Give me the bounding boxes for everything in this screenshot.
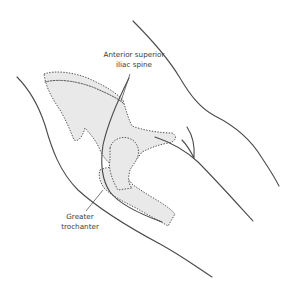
upper-body-contour [133, 21, 279, 186]
greater-trochanter-label-line2: trochanter [50, 222, 110, 232]
asis-label-line2: iliac spine [94, 60, 174, 70]
asis-label: Anterior superior iliac spine [94, 50, 174, 70]
femur-bone [99, 167, 175, 226]
femoral-head [109, 137, 138, 190]
asis-leader-line [121, 74, 130, 101]
greater-trochanter-label: Greater trochanter [50, 212, 110, 232]
greater-trochanter-label-line1: Greater [50, 212, 110, 222]
asis-label-line1: Anterior superior [94, 50, 174, 60]
hip-anatomy-diagram [0, 0, 289, 289]
